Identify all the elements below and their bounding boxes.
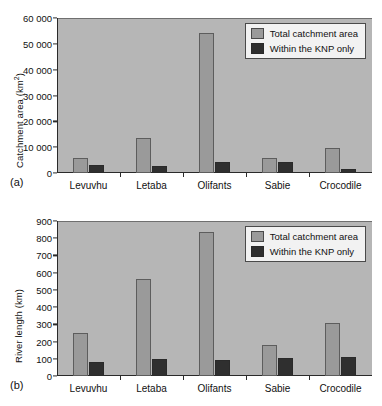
y-tick-mark bbox=[53, 220, 57, 221]
x-tick-mark bbox=[309, 173, 310, 177]
y-tick-label: 50 000 bbox=[23, 38, 57, 49]
legend-row-knp-a: Within the KNP only bbox=[251, 43, 358, 54]
plot-wrap-b: 0100200300400500600700800900 LevuvhuLeta… bbox=[57, 221, 372, 376]
legend-swatch-total-icon-a bbox=[251, 28, 264, 39]
plot-wrap-a: 010 00020 00030 00040 00050 00060 000 Le… bbox=[57, 18, 372, 173]
x-tick-mark bbox=[183, 376, 184, 380]
x-tick-mark bbox=[183, 173, 184, 177]
x-tick-mark bbox=[246, 376, 247, 380]
panel-tag-a: (a) bbox=[10, 176, 23, 188]
y-tick-mark bbox=[53, 17, 57, 18]
y-tick-mark bbox=[53, 43, 57, 44]
y-tick-mark bbox=[53, 95, 57, 96]
legend-row-total-a: Total catchment area bbox=[251, 28, 358, 39]
y-tick-mark bbox=[53, 69, 57, 70]
legend-a: Total catchment area Within the KNP only bbox=[245, 23, 366, 59]
figure: Catchment area (km2) 010 00020 00030 000… bbox=[0, 0, 382, 406]
bar-knp-levuvhu bbox=[89, 165, 104, 173]
bar-total-sabie bbox=[262, 158, 277, 174]
y-tick-mark bbox=[53, 341, 57, 342]
y-tick-mark bbox=[53, 147, 57, 148]
bar-total-sabie bbox=[262, 345, 277, 376]
x-tick-label: Sabie bbox=[265, 180, 291, 191]
plot-top-rule-a bbox=[58, 18, 372, 19]
bar-knp-letaba bbox=[152, 359, 167, 376]
y-tick-mark bbox=[53, 324, 57, 325]
bar-knp-sabie bbox=[278, 162, 293, 173]
y-tick-mark bbox=[53, 307, 57, 308]
bar-knp-crocodile bbox=[341, 169, 356, 173]
x-tick-mark bbox=[309, 376, 310, 380]
y-tick-mark bbox=[53, 358, 57, 359]
x-tick-label: Levuvhu bbox=[70, 180, 108, 191]
x-tick-mark bbox=[120, 173, 121, 177]
bar-total-letaba bbox=[136, 138, 151, 173]
y-tick-label: 60 000 bbox=[23, 13, 57, 24]
x-tick-label: Levuvhu bbox=[70, 383, 108, 394]
y-tick-mark bbox=[53, 172, 57, 173]
x-tick-label: Sabie bbox=[265, 383, 291, 394]
y-tick-mark bbox=[53, 272, 57, 273]
x-tick-mark bbox=[120, 376, 121, 380]
bar-total-levuvhu bbox=[73, 333, 88, 376]
bar-knp-crocodile bbox=[341, 357, 356, 376]
bar-total-olifants bbox=[199, 232, 214, 376]
legend-label-total-a: Total catchment area bbox=[270, 29, 358, 39]
y-tick-label: 30 000 bbox=[23, 90, 57, 101]
x-tick-label: Crocodile bbox=[319, 383, 361, 394]
plot-top-rule-b bbox=[58, 221, 372, 222]
legend-label-total-b: Total catchment area bbox=[270, 232, 358, 242]
bar-knp-letaba bbox=[152, 166, 167, 173]
legend-b: Total catchment area Within the KNP only bbox=[245, 226, 366, 262]
y-tick-mark bbox=[53, 289, 57, 290]
bar-total-crocodile bbox=[325, 323, 340, 376]
x-tick-label: Letaba bbox=[136, 383, 167, 394]
legend-label-knp-b: Within the KNP only bbox=[270, 247, 354, 257]
y-tick-label: 10 000 bbox=[23, 142, 57, 153]
x-tick-label: Olifants bbox=[198, 383, 232, 394]
y-tick-mark bbox=[53, 121, 57, 122]
bar-knp-olifants bbox=[215, 360, 230, 376]
y-axis-title-b: River length (km) bbox=[13, 289, 24, 363]
y-tick-label: 20 000 bbox=[23, 116, 57, 127]
x-tick-label: Olifants bbox=[198, 180, 232, 191]
bar-total-crocodile bbox=[325, 148, 340, 173]
chart-panel-a: Catchment area (km2) 010 00020 00030 000… bbox=[0, 0, 382, 203]
bar-knp-sabie bbox=[278, 358, 293, 376]
y-axis-title-superscript-a: 2 bbox=[13, 76, 20, 80]
bar-knp-olifants bbox=[215, 162, 230, 173]
legend-row-total-b: Total catchment area bbox=[251, 231, 358, 242]
panel-tag-b: (b) bbox=[10, 379, 23, 391]
bar-total-letaba bbox=[136, 279, 151, 376]
y-tick-mark bbox=[53, 255, 57, 256]
chart-panel-b: River length (km) 0100200300400500600700… bbox=[0, 203, 382, 406]
legend-row-knp-b: Within the KNP only bbox=[251, 246, 358, 257]
legend-swatch-total-icon-b bbox=[251, 231, 264, 242]
bar-knp-levuvhu bbox=[89, 362, 104, 376]
bar-total-olifants bbox=[199, 33, 214, 173]
legend-label-knp-a: Within the KNP only bbox=[270, 44, 354, 54]
y-tick-mark bbox=[53, 375, 57, 376]
legend-swatch-knp-icon-b bbox=[251, 246, 264, 257]
bar-total-levuvhu bbox=[73, 158, 88, 173]
x-tick-mark bbox=[246, 173, 247, 177]
legend-swatch-knp-icon-a bbox=[251, 43, 264, 54]
y-tick-mark bbox=[53, 238, 57, 239]
x-tick-label: Crocodile bbox=[319, 180, 361, 191]
y-tick-label: 40 000 bbox=[23, 64, 57, 75]
x-tick-label: Letaba bbox=[136, 180, 167, 191]
